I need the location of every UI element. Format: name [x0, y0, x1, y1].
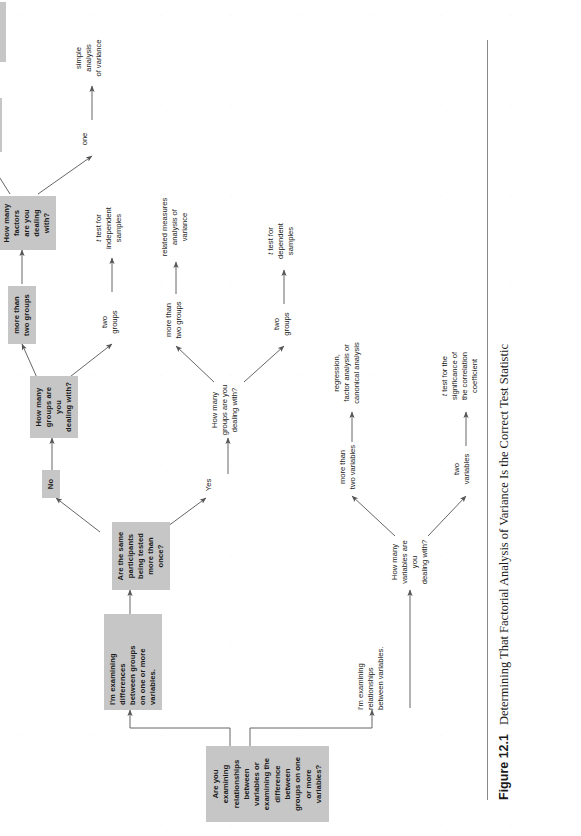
node-answer-yes[interactable]: Yes — [204, 474, 214, 496]
node-factorial-anova[interactable]: factorialanalysis ofvariance — [0, 2, 6, 62]
node-how-many-groups-yes[interactable]: How manygroups are youdealing with? — [210, 382, 240, 438]
node-simple-anova[interactable]: simpleanalysisof variance — [74, 32, 104, 84]
node-how-many-groups-no[interactable]: How manygroups are youdealing with? — [30, 376, 78, 438]
node-how-many-factors[interactable]: How manyfactorsare youdealing with? — [0, 196, 56, 250]
node-regression-factor-canonical[interactable]: regression,factor analysis orcanonical a… — [332, 336, 362, 410]
node-one-factor[interactable]: one — [80, 126, 90, 152]
figure-number: Figure 12.1 — [497, 734, 511, 800]
branch-label-differences[interactable]: I'm examining differencesbetween groupso… — [104, 614, 162, 710]
node-two-variables[interactable]: twovariables — [452, 444, 472, 494]
node-two-groups-yes[interactable]: twogroups — [272, 304, 292, 344]
node-root-question[interactable]: Are you examining relationships betweenv… — [206, 746, 329, 822]
node-more-than-two-variables[interactable]: more thantwo variables — [338, 440, 358, 494]
node-answer-no[interactable]: No — [42, 470, 60, 498]
node-t-test-correlation[interactable]: t test for thesignificance ofthe correla… — [440, 342, 480, 410]
figure-caption-text: Determining That Factorial Analysis of V… — [497, 344, 511, 725]
node-how-many-variables[interactable]: How manyvariables are youdealing with? — [390, 534, 430, 590]
caption-divider — [487, 40, 488, 800]
node-more-than-two-groups-no[interactable]: more thantwo groups — [8, 286, 36, 344]
node-related-measures-anova[interactable]: related measuresanalysis ofvariance — [160, 194, 190, 260]
node-more-than-two-groups-yes[interactable]: more thantwo groups — [164, 294, 184, 346]
rotated-page-canvas: Are you examining relationships betweenv… — [0, 0, 581, 836]
node-same-participants-question[interactable]: Are the same participantsbeing tested mo… — [112, 522, 170, 590]
node-t-test-dependent[interactable]: t test fordependentsamples — [266, 214, 296, 268]
flowchart-figure: Are you examining relationships betweenv… — [0, 0, 520, 836]
figure-caption: Figure 12.1Determining That Factorial An… — [497, 20, 512, 800]
node-more-than-one-factor[interactable]: more thanone — [0, 98, 2, 152]
node-t-test-independent[interactable]: t test forindependentsamples — [94, 200, 124, 256]
node-two-groups-no[interactable]: twogroups — [100, 302, 120, 342]
branch-label-relationships: I'm examiningrelationshipsbetween variab… — [356, 618, 386, 710]
